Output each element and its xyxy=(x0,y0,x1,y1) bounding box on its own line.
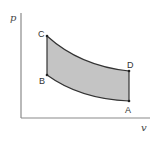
point-b xyxy=(46,74,49,77)
x-axis-label: v xyxy=(141,122,147,133)
y-axis-label: p xyxy=(10,12,17,23)
pv-diagram: p v C B D A xyxy=(0,0,154,141)
label-c: C xyxy=(38,29,45,39)
label-b: B xyxy=(39,76,45,86)
point-c xyxy=(46,35,49,38)
label-a: A xyxy=(125,105,131,115)
point-a xyxy=(128,100,131,103)
label-d: D xyxy=(127,60,134,70)
point-d xyxy=(128,70,131,73)
